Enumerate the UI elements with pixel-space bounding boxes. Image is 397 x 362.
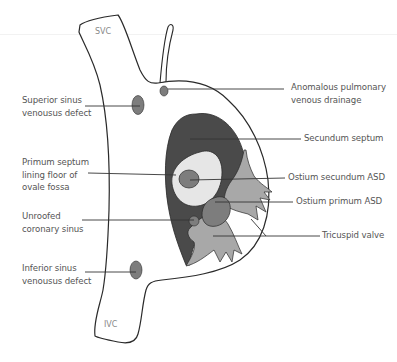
inferior-sinus-venosus-defect: [130, 261, 142, 279]
label-anomalous-pulmonary-venous-drainage: Anomalous pulmonary venous drainage: [291, 81, 386, 106]
pulmonary-vein-tube: [160, 25, 173, 83]
anomalous-pulmonary-venous-defect: [160, 86, 168, 96]
unroofed-coronary-sinus: [189, 216, 199, 226]
label-ostium-primum-asd: Ostium primum ASD: [296, 195, 382, 208]
ostium-secundum-defect: [179, 170, 199, 188]
label-unroofed-coronary-sinus: Unroofed coronary sinus: [22, 210, 83, 235]
superior-sinus-venosus-defect: [132, 96, 144, 115]
label-ostium-secundum-asd: Ostium secundum ASD: [288, 171, 385, 184]
label-inferior-sinus-venosus-defect: Inferior sinus venousus defect: [22, 262, 91, 287]
svc-label: SVC: [95, 27, 111, 36]
label-secundum-septum: Secundum septum: [304, 132, 383, 145]
label-tricuspid-valve: Tricuspid valve: [322, 229, 384, 242]
ivc-label: IVC: [104, 320, 117, 329]
label-superior-sinus-venosus-defect: Superior sinus venousus defect: [22, 94, 91, 119]
label-primum-septum-lining-floor: Primum septum lining floor of ovale foss…: [22, 156, 89, 194]
